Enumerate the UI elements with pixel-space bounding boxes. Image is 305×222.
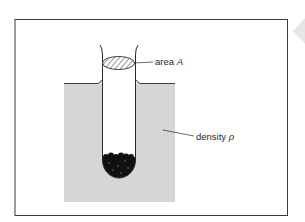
density-symbol: ρ: [229, 131, 234, 142]
density-label-prefix: density: [196, 131, 229, 142]
diagram-canvas: [0, 0, 305, 222]
density-label: density ρ: [196, 132, 234, 142]
cross-section-area: [103, 57, 135, 70]
triangle-left-icon[interactable]: [293, 18, 305, 44]
area-symbol: A: [177, 56, 183, 67]
area-label-prefix: area: [155, 56, 177, 67]
area-label: area A: [155, 57, 183, 67]
